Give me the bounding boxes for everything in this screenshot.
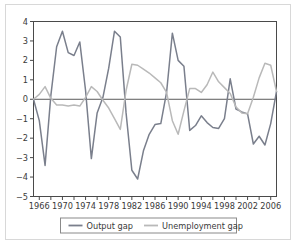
y-axis-tick-label: 2 <box>23 55 28 65</box>
y-axis-tick-label: 1 <box>23 75 28 85</box>
line-chart: 43210−1−2−3−4−51966197019741978198219861… <box>0 0 297 245</box>
y-axis-tick-label: −1 <box>16 114 28 124</box>
figure-container: 43210−1−2−3−4−51966197019741978198219861… <box>0 0 297 245</box>
y-axis-tick-label: −2 <box>16 133 28 143</box>
x-axis-tick-label: 2006 <box>260 201 281 211</box>
y-axis-tick-label: 4 <box>23 17 28 27</box>
y-axis-tick-label: 0 <box>23 94 28 104</box>
x-axis-tick-label: 1978 <box>98 201 119 211</box>
x-axis-tick-label: 1994 <box>191 201 212 211</box>
y-axis-tick-label: −4 <box>16 172 28 182</box>
x-axis-tick-label: 1982 <box>121 201 142 211</box>
x-axis-tick-label: 1986 <box>145 201 166 211</box>
legend-label: Unemployment gap <box>162 221 243 231</box>
x-axis-tick-label: 1998 <box>214 201 235 211</box>
y-axis-tick-label: −5 <box>16 192 28 202</box>
x-axis-tick-label: 1970 <box>52 201 73 211</box>
legend-label: Output gap <box>87 221 133 231</box>
x-axis-tick-label: 1966 <box>29 201 50 211</box>
x-axis-tick-label: 2002 <box>237 201 258 211</box>
x-axis-tick-label: 1974 <box>75 201 96 211</box>
plot-area-frame <box>34 22 277 197</box>
x-axis-tick-label: 1990 <box>168 201 189 211</box>
y-axis-tick-label: 3 <box>23 36 28 46</box>
y-axis-tick-label: −3 <box>16 153 28 163</box>
